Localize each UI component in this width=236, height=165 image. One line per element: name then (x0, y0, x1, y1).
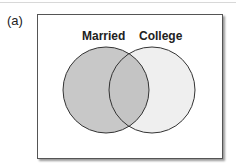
venn-diagram: Married College (0, 0, 236, 165)
married-label: Married (82, 29, 125, 43)
college-label: College (139, 29, 183, 43)
